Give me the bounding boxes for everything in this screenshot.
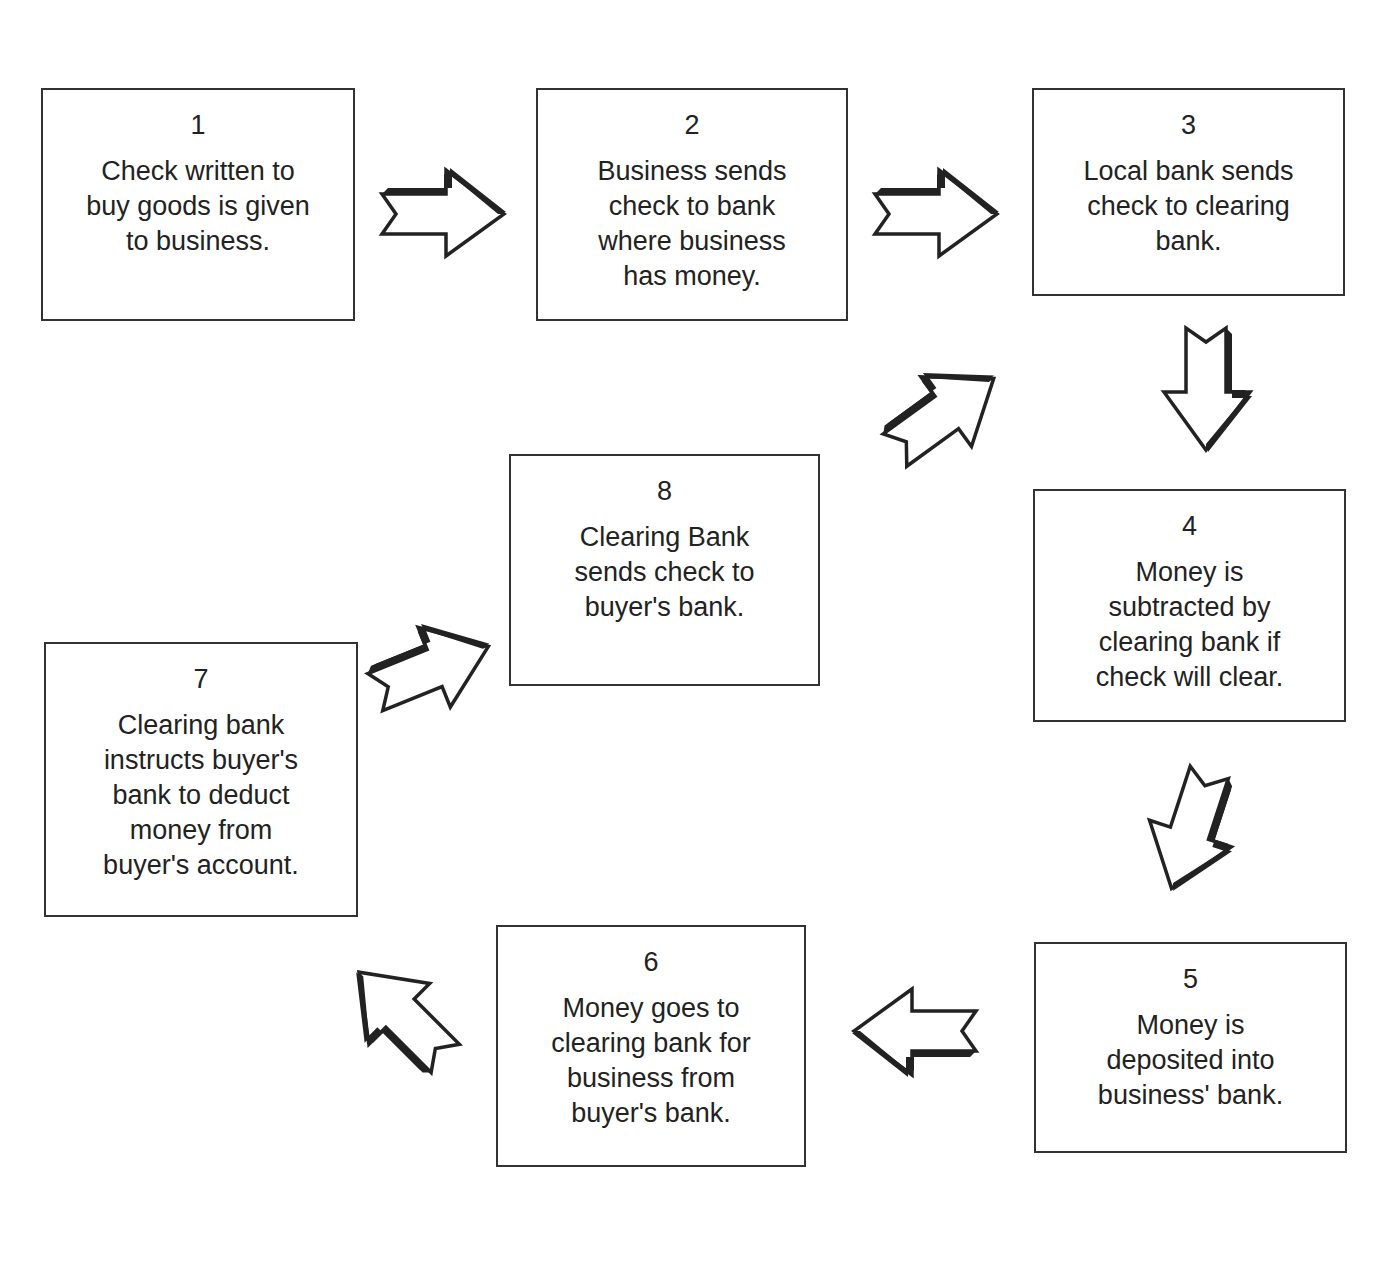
- arrows-layer: [0, 0, 1396, 1278]
- arrow-2-to-3-icon: [875, 168, 999, 256]
- arrow-1-to-2-icon: [382, 168, 506, 256]
- arrow-8-to-3-icon: [868, 340, 1020, 484]
- arrow-4-to-5-icon: [1131, 759, 1253, 904]
- arrow-5-to-6-icon: [852, 989, 976, 1077]
- arrow-6-to-7-icon: [325, 941, 475, 1091]
- arrow-7-to-8-icon: [358, 603, 506, 731]
- arrow-3-to-4-icon: [1164, 328, 1252, 452]
